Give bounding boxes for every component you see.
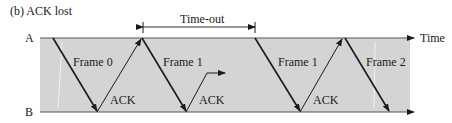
frame2-label: Frame 2	[366, 55, 406, 69]
timeline-band	[40, 38, 410, 112]
diagram-title: (b) ACK lost	[10, 4, 73, 18]
frame1-retx-label: Frame 1	[278, 55, 318, 69]
time-axis-label: Time	[420, 31, 445, 45]
frame0-label: Frame 0	[73, 55, 113, 69]
station-b-label: B	[25, 105, 33, 119]
ack-lost-diagram: (b) ACK lost A B Time Time-out Frame 0 A…	[0, 0, 452, 123]
station-a-label: A	[25, 31, 34, 45]
frame1-label: Frame 1	[163, 55, 203, 69]
timeout-label: Time-out	[180, 12, 225, 26]
ack1-label: ACK	[313, 93, 339, 107]
ack0-label: ACK	[110, 93, 136, 107]
ack-lost-label: ACK	[199, 93, 225, 107]
